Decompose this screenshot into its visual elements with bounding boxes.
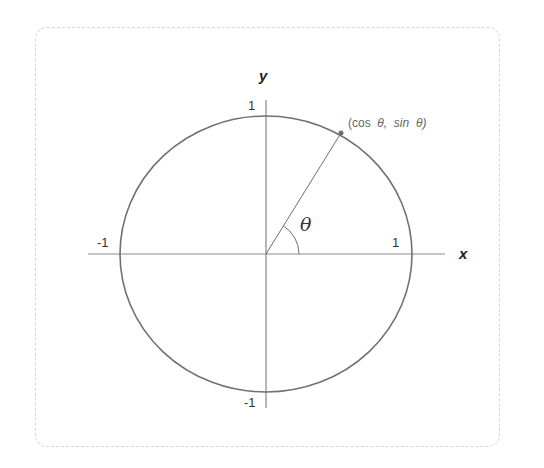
y-axis-label: y bbox=[259, 68, 267, 83]
angle-arc bbox=[283, 226, 299, 254]
x-tick-1: 1 bbox=[392, 236, 399, 249]
radius-line bbox=[266, 133, 341, 254]
point-coordinate-label: (cos θ, sin θ) bbox=[348, 117, 426, 129]
unit-circle-diagram bbox=[0, 0, 544, 468]
angle-theta-label: θ bbox=[300, 215, 311, 234]
point-marker bbox=[339, 131, 344, 136]
x-axis-label: x bbox=[459, 246, 467, 261]
y-tick-1: 1 bbox=[248, 99, 255, 112]
x-tick-neg1: -1 bbox=[97, 236, 109, 249]
y-tick-neg1: -1 bbox=[244, 396, 256, 409]
